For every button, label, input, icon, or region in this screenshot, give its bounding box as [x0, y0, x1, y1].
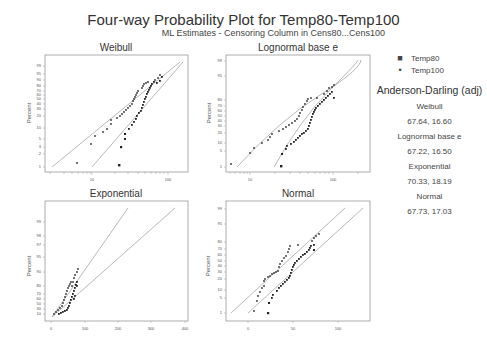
svg-text:5: 5 — [220, 148, 223, 153]
weibull-title: Weibull — [100, 42, 133, 53]
svg-text:10: 10 — [248, 177, 253, 182]
ad-dist-lognormal: Lognormal base e — [372, 129, 487, 144]
svg-text:400: 400 — [182, 326, 189, 331]
svg-text:95: 95 — [37, 71, 42, 76]
svg-text:80: 80 — [218, 239, 223, 244]
exponential-title: Exponential — [90, 188, 142, 199]
svg-text:100: 100 — [330, 177, 337, 182]
ad-values-lognormal: 67.22, 16.50 — [372, 144, 487, 159]
svg-text:50: 50 — [218, 258, 223, 263]
svg-text:99: 99 — [37, 63, 42, 68]
svg-text:10: 10 — [90, 177, 95, 182]
svg-text:10: 10 — [37, 125, 42, 130]
svg-text:0: 0 — [50, 326, 53, 331]
legend-item-temp100: •Temp100 — [372, 64, 487, 76]
svg-text:99: 99 — [218, 58, 223, 63]
ad-dist-normal: Normal — [372, 189, 487, 204]
svg-text:90: 90 — [37, 269, 42, 274]
svg-text:1: 1 — [220, 164, 223, 169]
ad-values-normal: 67.73, 17.03 — [372, 204, 487, 219]
ad-dist-exponential: Exponential — [372, 159, 487, 174]
square-marker-icon: ■ — [395, 52, 405, 64]
svg-text:20: 20 — [218, 130, 223, 135]
svg-text:20: 20 — [37, 113, 42, 118]
svg-text:90: 90 — [37, 77, 42, 82]
svg-text:3: 3 — [39, 144, 42, 149]
svg-text:70: 70 — [37, 291, 42, 296]
svg-text:1: 1 — [39, 164, 42, 169]
svg-text:40: 40 — [218, 263, 223, 268]
ad-dist-weibull: Weibull — [372, 99, 487, 114]
exponential-plot: Exponential Percent 103050 607080 909597… — [26, 188, 189, 331]
svg-text:1: 1 — [220, 310, 223, 315]
svg-text:30: 30 — [218, 123, 223, 128]
svg-text:20: 20 — [218, 276, 223, 281]
svg-text:300: 300 — [148, 326, 155, 331]
legend-item-temp80: ■Temp80 — [372, 52, 487, 64]
svg-text:10: 10 — [218, 140, 223, 145]
ad-values-exponential: 70.33, 18.19 — [372, 174, 487, 189]
svg-text:30: 30 — [218, 269, 223, 274]
svg-text:60: 60 — [218, 252, 223, 257]
lognormal-plot: Lognormal base e Percent 1510 203040 506… — [206, 42, 370, 182]
svg-text:95: 95 — [218, 221, 223, 226]
svg-text:100: 100 — [335, 326, 342, 331]
svg-text:70: 70 — [218, 246, 223, 251]
svg-text:40: 40 — [37, 101, 42, 106]
svg-text:50: 50 — [291, 326, 296, 331]
weibull-plot: Weibull Percent 123 51020 304050 607080 … — [26, 42, 188, 182]
weibull-ylabel: Percent — [26, 102, 32, 123]
svg-text:60: 60 — [37, 296, 42, 301]
normal-ylabel: Percent — [205, 255, 211, 276]
svg-text:10: 10 — [218, 287, 223, 292]
svg-text:70: 70 — [218, 103, 223, 108]
legend-label: Temp100 — [411, 66, 444, 75]
legend: ■Temp80 •Temp100 Anderson-Darling (adj) … — [372, 52, 487, 219]
lognormal-ylabel: Percent — [206, 102, 212, 123]
svg-text:2: 2 — [39, 151, 42, 156]
svg-text:30: 30 — [37, 106, 42, 111]
dot-marker-icon: • — [395, 64, 405, 76]
svg-text:100: 100 — [82, 326, 89, 331]
svg-text:100: 100 — [165, 177, 172, 182]
svg-text:80: 80 — [218, 97, 223, 102]
svg-text:97: 97 — [37, 242, 42, 247]
normal-title: Normal — [282, 188, 314, 199]
svg-text:95: 95 — [218, 73, 223, 78]
svg-text:50: 50 — [37, 301, 42, 306]
normal-plot: Normal Percent 1510 203040 506070 809599… — [205, 188, 370, 331]
svg-text:99: 99 — [218, 206, 223, 211]
svg-text:70: 70 — [37, 88, 42, 93]
svg-text:98: 98 — [37, 233, 42, 238]
svg-text:60: 60 — [218, 108, 223, 113]
svg-text:5: 5 — [39, 136, 42, 141]
svg-text:5: 5 — [220, 295, 223, 300]
lognormal-title: Lognormal base e — [258, 42, 338, 53]
svg-text:0: 0 — [247, 326, 250, 331]
svg-text:50: 50 — [218, 113, 223, 118]
svg-text:95: 95 — [37, 254, 42, 259]
anderson-darling-title: Anderson-Darling (adj) — [372, 84, 487, 96]
svg-text:80: 80 — [37, 283, 42, 288]
svg-text:30: 30 — [37, 306, 42, 311]
ad-values-weibull: 67.64, 16.60 — [372, 114, 487, 129]
svg-text:99: 99 — [37, 219, 42, 224]
svg-text:200: 200 — [115, 326, 122, 331]
svg-text:10: 10 — [37, 311, 42, 316]
legend-label: Temp80 — [411, 54, 439, 63]
exponential-ylabel: Percent — [26, 255, 32, 276]
svg-text:80: 80 — [37, 83, 42, 88]
svg-text:40: 40 — [218, 118, 223, 123]
